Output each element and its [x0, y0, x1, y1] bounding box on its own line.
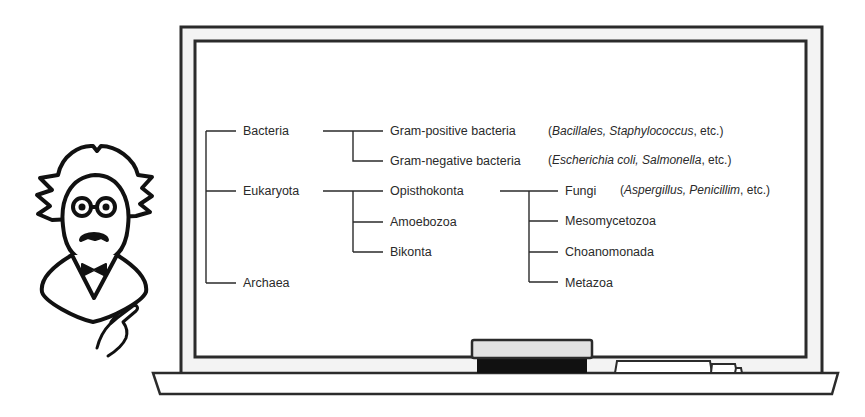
- professor-icon: [37, 146, 152, 356]
- node-label: Mesomycetozoa: [565, 214, 656, 228]
- node-label: Gram-positive bacteria: [390, 124, 516, 138]
- example-note: (Escherichia coli, Salmonella, etc.): [548, 153, 731, 167]
- eraser-icon: [472, 340, 592, 373]
- chalk-ledge: [153, 373, 838, 394]
- example-note: (Aspergillus, Penicillim, etc.): [620, 183, 770, 197]
- body-icon: [42, 255, 147, 322]
- board-frame: [181, 27, 822, 374]
- face-icon: [62, 175, 128, 262]
- node-label: Fungi: [565, 184, 596, 198]
- node-label: Archaea: [243, 276, 290, 290]
- node-label: Opisthokonta: [390, 184, 464, 198]
- node-label: Metazoa: [565, 276, 613, 290]
- node-label: Bikonta: [390, 245, 432, 259]
- node-label: Eukaryota: [243, 184, 299, 198]
- mustache-icon: [81, 234, 107, 240]
- node-label: Gram-negative bacteria: [390, 154, 521, 168]
- node-label: Amoebozoa: [390, 215, 457, 229]
- blackboard-scene: [0, 0, 865, 417]
- node-label: Choanomonada: [565, 245, 654, 259]
- example-note: (Bacillales, Staphylococcus, etc.): [548, 124, 723, 138]
- node-label: Bacteria: [243, 124, 289, 138]
